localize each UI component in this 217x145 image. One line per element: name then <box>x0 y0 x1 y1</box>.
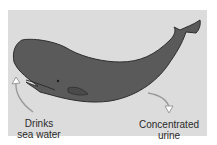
intake-label: Drinks sea water <box>14 118 64 140</box>
output-label-line-1: Concentrated <box>134 119 204 130</box>
intake-label-line-1: Drinks <box>14 118 64 129</box>
intake-label-line-2: sea water <box>14 129 64 140</box>
intake-arrow <box>16 82 33 112</box>
whale-eye <box>57 80 59 82</box>
intake-arrowhead-icon <box>12 77 20 84</box>
output-arrow <box>148 93 169 107</box>
whale-body <box>13 20 200 102</box>
output-label: Concentrated urine <box>134 119 204 141</box>
output-label-line-2: urine <box>134 130 204 141</box>
output-arrowhead-icon <box>165 106 173 113</box>
